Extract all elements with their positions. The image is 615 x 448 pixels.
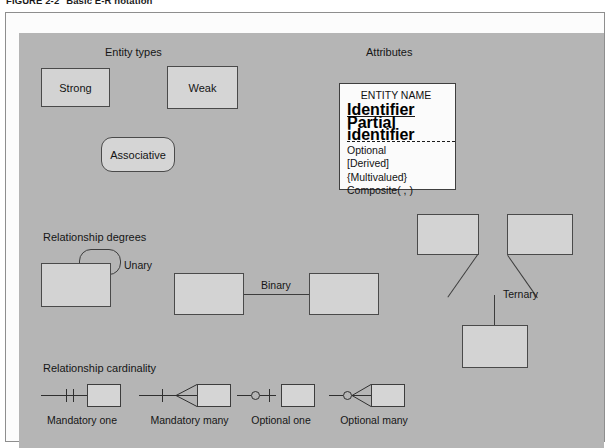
entity-associative-box: Associative (101, 137, 175, 172)
figure-caption: FIGURE 2-2Basic E-R notation (6, 0, 153, 7)
optional-many-entity-box (371, 384, 405, 407)
ternary-label: Ternary (503, 288, 538, 300)
binary-connector-line (244, 294, 309, 295)
diagram-canvas: Entity types Strong Weak Associative Att… (19, 33, 604, 448)
figure-title: Basic E-R notation (66, 0, 152, 6)
attribute-multivalued: {Multivalued} (340, 171, 455, 184)
mandatory-many-tick (162, 389, 163, 402)
mandatory-one-entity-box (87, 384, 121, 407)
section-title-relationship-cardinality: Relationship cardinality (43, 362, 156, 374)
section-title-relationship-degrees: Relationship degrees (43, 231, 146, 243)
attribute-optional: Optional (340, 144, 455, 157)
mandatory-many-label: Mandatory many (137, 414, 242, 426)
attributes-box: ENTITY NAME Identifier Partial identifie… (339, 83, 456, 190)
entity-strong-box: Strong (41, 68, 110, 107)
mandatory-many-line (139, 395, 178, 396)
section-title-attributes: Attributes (366, 46, 412, 58)
binary-entity-box-right (309, 273, 379, 315)
figure-frame: Entity types Strong Weak Associative Att… (5, 12, 605, 442)
optional-many-circle (343, 391, 352, 400)
attribute-partial-identifier: Partial identifier (347, 117, 455, 142)
optional-one-entity-box (281, 384, 315, 407)
ternary-entity-box-top-right (507, 214, 573, 255)
optional-many-line (329, 395, 343, 396)
ternary-entity-box-top-left (417, 214, 479, 255)
optional-one-line-left (237, 395, 251, 396)
unary-label: Unary (124, 259, 152, 271)
optional-many-crowfoot (352, 384, 372, 407)
optional-one-label: Optional one (235, 414, 327, 426)
mandatory-one-label: Mandatory one (32, 414, 132, 426)
binary-entity-box-left (174, 273, 244, 315)
optional-one-circle (251, 391, 260, 400)
ternary-connector-bottom (494, 295, 495, 325)
entity-weak-label: Weak (189, 82, 217, 94)
mandatory-many-crowfoot (176, 384, 198, 407)
optional-one-line-right (260, 395, 276, 396)
attribute-derived: [Derived] (340, 157, 455, 170)
unary-entity-box (41, 263, 111, 307)
entity-associative-label: Associative (110, 149, 166, 161)
optional-many-label: Optional many (324, 414, 424, 426)
mandatory-many-entity-box (197, 384, 231, 407)
attribute-composite: Composite( , ) (340, 184, 455, 197)
section-title-entity-types: Entity types (105, 46, 162, 58)
mandatory-one-tick-1 (66, 389, 67, 402)
mandatory-one-line (41, 395, 87, 396)
entity-strong-label: Strong (59, 82, 91, 94)
ternary-entity-box-bottom (462, 325, 528, 368)
entity-weak-inner-box: Weak (189, 82, 217, 94)
figure-number: FIGURE 2-2 (6, 0, 59, 6)
optional-one-tick (269, 389, 270, 402)
mandatory-one-tick-2 (73, 389, 74, 402)
ternary-connector-left (447, 254, 478, 297)
entity-weak-box: Weak (167, 66, 238, 109)
binary-label: Binary (261, 279, 291, 291)
